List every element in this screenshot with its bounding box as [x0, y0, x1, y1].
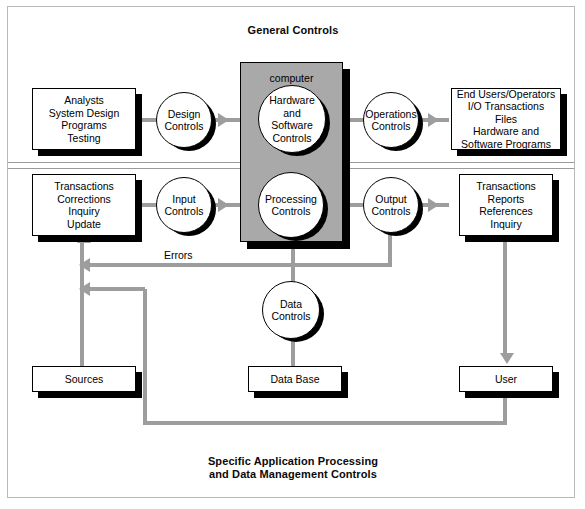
- arrowhead-operations-to-endusers-icon: [428, 113, 439, 127]
- box-user: User: [459, 366, 553, 392]
- box-sources-text: Sources: [62, 373, 107, 386]
- circle-data-controls-text: Data Controls: [271, 298, 310, 323]
- connector-errors-horizontal: [80, 263, 390, 267]
- page-title-specific-application-line2: and Data Management Controls: [173, 468, 413, 481]
- box-sources: Sources: [32, 366, 136, 392]
- circle-operations-controls-text: Operations Controls: [365, 108, 416, 133]
- box-transactions-corrections: Transactions Corrections Inquiry Update: [32, 174, 136, 236]
- connector-userloop-vertical-left: [143, 289, 147, 424]
- page-title-specific-application-line1: Specific Application Processing: [173, 455, 413, 468]
- arrowhead-userloop-to-transactions-icon: [79, 282, 90, 296]
- box-end-users-operators-text: End Users/Operators I/O Transactions Fil…: [454, 88, 559, 151]
- circle-processing-controls-text: Processing Controls: [265, 193, 317, 218]
- box-analysts-system-design: Analysts System Design Programs Testing: [32, 88, 136, 150]
- computer-label: computer: [241, 72, 342, 84]
- circle-data-controls: Data Controls: [262, 281, 320, 339]
- arrowhead-design-to-computer-icon: [218, 113, 229, 127]
- box-transactions-reports-text: Transactions Reports References Inquiry: [473, 180, 539, 230]
- box-transactions-corrections-text: Transactions Corrections Inquiry Update: [51, 180, 117, 230]
- arrowhead-input-to-processing-icon: [218, 198, 229, 212]
- circle-processing-controls: Processing Controls: [258, 172, 324, 238]
- box-user-text: User: [492, 373, 520, 386]
- diagram-canvas: General Controls Errors computer Analyst…: [0, 0, 585, 509]
- connector-processing-to-data-controls: [291, 240, 295, 282]
- circle-operations-controls: Operations Controls: [363, 92, 419, 148]
- circle-design-controls: Design Controls: [156, 92, 212, 148]
- circle-output-controls-text: Output Controls: [371, 193, 410, 218]
- circle-hardware-software-controls-text: Hardware and Software Controls: [269, 94, 315, 144]
- box-data-base: Data Base: [248, 366, 342, 392]
- circle-input-controls: Input Controls: [156, 177, 212, 233]
- arrowhead-output-to-reports-icon: [428, 198, 439, 212]
- connector-reports-to-user: [503, 238, 507, 356]
- box-end-users-operators: End Users/Operators I/O Transactions Fil…: [451, 88, 561, 150]
- box-data-base-text: Data Base: [267, 373, 322, 386]
- connector-output-down-to-errors: [388, 228, 392, 267]
- connector-user-down-to-loop: [503, 390, 507, 425]
- circle-output-controls: Output Controls: [363, 177, 419, 233]
- errors-label: Errors: [161, 249, 196, 261]
- arrowhead-reports-to-user-icon: [500, 353, 514, 364]
- connector-sources-to-transactions: [80, 238, 84, 368]
- circle-hardware-software-controls: Hardware and Software Controls: [258, 85, 326, 153]
- box-transactions-reports: Transactions Reports References Inquiry: [459, 174, 553, 236]
- connector-userloop-bottom-horizontal: [143, 421, 507, 425]
- page-title-general-controls: General Controls: [183, 24, 403, 37]
- circle-design-controls-text: Design Controls: [164, 108, 203, 133]
- box-analysts-system-design-text: Analysts System Design Programs Testing: [46, 94, 123, 144]
- circle-input-controls-text: Input Controls: [164, 193, 203, 218]
